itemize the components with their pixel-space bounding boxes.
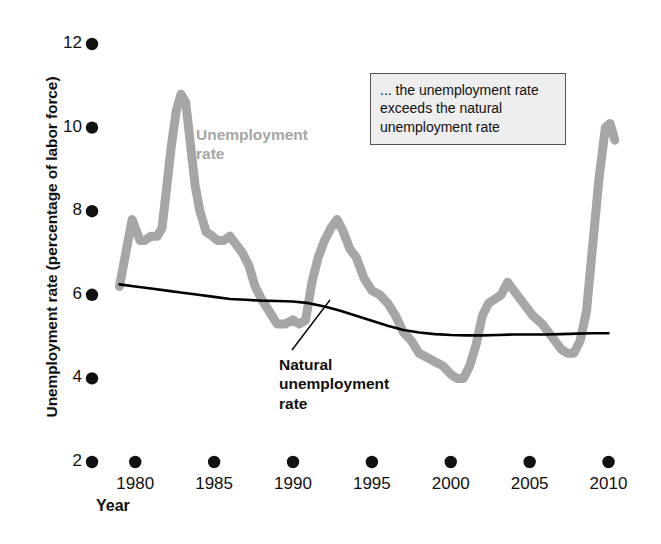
natural-rate-series-label-line2: unemployment — [279, 375, 389, 392]
x-tick-dot — [129, 456, 141, 468]
x-tick-label: 1990 — [263, 474, 323, 494]
x-axis-tick-dots — [129, 456, 615, 468]
natural-rate-series-label: Natural unemployment rate — [279, 355, 389, 413]
unemployment-rate-series-label-line2: rate — [196, 145, 224, 162]
x-tick-label: 2010 — [579, 474, 639, 494]
natural-rate-series-label-line1: Natural — [279, 356, 332, 373]
y-tick-label: 8 — [52, 200, 82, 220]
y-tick-label: 12 — [52, 33, 82, 53]
x-tick-dot — [208, 456, 220, 468]
x-tick-dot — [287, 456, 299, 468]
y-tick-dot — [86, 372, 98, 384]
x-tick-dot — [366, 456, 378, 468]
y-tick-dot — [86, 289, 98, 301]
x-tick-dot — [602, 456, 614, 468]
y-tick-dot — [86, 38, 98, 50]
y-tick-label: 6 — [52, 284, 82, 304]
x-tick-label: 1995 — [342, 474, 402, 494]
unemployment-rate-series-label: Unemployment rate — [196, 125, 308, 164]
natural-unemployment-rate-line — [119, 284, 608, 335]
x-tick-label: 2000 — [421, 474, 481, 494]
x-tick-label: 1985 — [184, 474, 244, 494]
natural-rate-series-label-line3: rate — [279, 395, 307, 412]
y-tick-dot — [86, 121, 98, 133]
y-tick-label: 4 — [52, 367, 82, 387]
y-tick-dot — [86, 456, 98, 468]
y-tick-label: 2 — [52, 451, 82, 471]
unemployment-rate-series-label-line1: Unemployment — [196, 126, 308, 143]
y-tick-label: 10 — [52, 117, 82, 137]
y-axis-tick-dots — [86, 38, 98, 468]
x-tick-dot — [445, 456, 457, 468]
x-tick-label: 1980 — [105, 474, 165, 494]
x-tick-dot — [523, 456, 535, 468]
y-axis-title: Unemployment rate (percentage of labor f… — [43, 27, 61, 467]
callout-annotation-box: ... the unemployment rate exceeds the na… — [370, 73, 566, 145]
x-tick-label: 2005 — [500, 474, 560, 494]
x-axis-title: Year — [96, 497, 130, 515]
y-tick-dot — [86, 205, 98, 217]
unemployment-chart-figure: Unemployment rate (percentage of labor f… — [0, 0, 661, 544]
